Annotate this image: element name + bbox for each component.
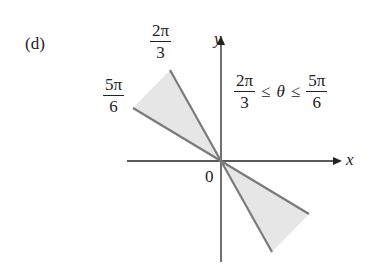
ray-label-denominator: 6 xyxy=(109,96,118,115)
left-denominator: 3 xyxy=(240,92,249,111)
inequality-left-fraction: 2π 3 xyxy=(234,72,255,111)
origin-label: 0 xyxy=(205,168,214,185)
polar-region-diagram: (d) 2π 3 5π 6 y x 0 2π 3 ≤ θ ≤ 5π 6 xyxy=(0,0,382,274)
diagram-canvas xyxy=(0,0,382,274)
theta-variable: θ xyxy=(276,82,284,102)
y-axis-label: y xyxy=(214,30,222,47)
right-denominator: 6 xyxy=(312,92,321,111)
x-axis-arrow-icon xyxy=(333,157,342,165)
ray-label-2pi-3: 2π 3 xyxy=(150,22,171,61)
right-numerator: 5π xyxy=(306,72,327,92)
ray-label-numerator: 5π xyxy=(103,76,124,96)
panel-label: (d) xyxy=(25,35,45,52)
leq-symbol: ≤ xyxy=(291,82,300,102)
angle-inequality: 2π 3 ≤ θ ≤ 5π 6 xyxy=(234,72,327,111)
inequality-right-fraction: 5π 6 xyxy=(306,72,327,111)
ray-label-numerator: 2π xyxy=(150,22,171,42)
ray-label-5pi-6: 5π 6 xyxy=(103,76,124,115)
leq-symbol: ≤ xyxy=(261,82,270,102)
ray-label-denominator: 3 xyxy=(156,42,165,61)
x-axis-label: x xyxy=(346,151,354,168)
left-numerator: 2π xyxy=(234,72,255,92)
